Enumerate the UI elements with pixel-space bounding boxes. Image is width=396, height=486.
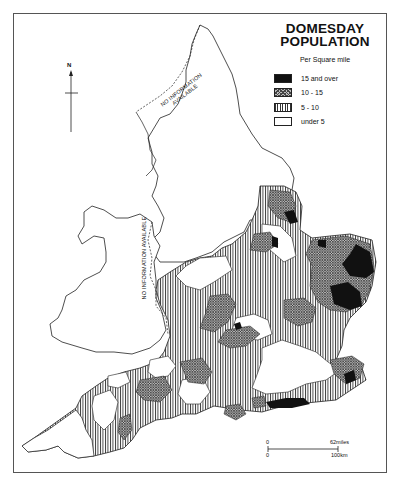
title-line-2: POPULATION [270,35,380,48]
swatch-cross-hatch-icon [274,88,292,97]
north-arrow [65,70,78,132]
swatch-solid-black-icon [274,74,292,83]
legend-subtitle: Per Square mile [268,56,382,63]
scale-bar [268,446,338,452]
legend-item-15-and-over: 15 and over [274,71,338,86]
swatch-vertical-lines-icon [274,103,292,112]
scale-km-start: 0 [266,452,269,458]
legend-label: 10 - 15 [301,89,323,96]
wales-outline [50,206,166,354]
no-info-label-wales: NO INFORMATION AVAILABLE [141,198,147,318]
legend-label: under 5 [301,118,325,125]
scale-km-end: 100km [331,452,348,458]
region-10-to-15 [252,396,266,408]
legend-item-10-to-15: 10 - 15 [274,86,338,101]
scale-miles-start: 0 [266,439,269,445]
north-label: N [67,62,71,68]
legend-item-5-to-10: 5 - 10 [274,100,338,115]
legend-label: 15 and over [301,75,338,82]
scale-miles-end: 62miles [330,439,349,445]
region-15-and-over [272,236,278,248]
legend-item-under-5: under 5 [274,115,338,130]
swatch-white-icon [274,117,292,126]
legend: 15 and over 10 - 15 5 - 10 under 5 [274,71,338,129]
map-title: DOMESDAY POPULATION [270,22,380,48]
legend-label: 5 - 10 [301,104,319,111]
